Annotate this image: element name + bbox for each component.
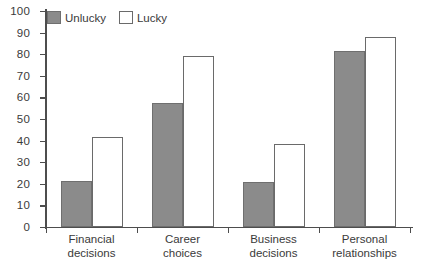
category-label-line: relationships	[332, 247, 397, 261]
y-axis-tick-label: 0	[23, 221, 30, 233]
y-axis-tick: 100	[40, 11, 46, 12]
y-axis-tick-label: 80	[17, 48, 30, 60]
legend-item-unlucky: Unlucky	[47, 11, 106, 24]
x-axis-category-label: Financialdecisions	[68, 233, 116, 260]
x-axis-tick	[319, 227, 320, 233]
x-axis-tick	[46, 227, 47, 233]
y-axis-tick-label: 70	[17, 70, 30, 82]
y-axis-tick: 80	[40, 54, 46, 55]
y-axis-tick-label: 60	[17, 91, 30, 103]
bar-unlucky-1	[152, 103, 183, 227]
legend-swatch-lucky-icon	[119, 11, 133, 24]
bar-unlucky-0	[61, 181, 92, 227]
category-label-line: decisions	[250, 247, 298, 261]
x-axis-tick	[228, 227, 229, 233]
y-axis-tick: 90	[40, 33, 46, 34]
category-label-line: Financial	[68, 233, 116, 247]
y-axis-tick-label: 40	[17, 135, 30, 147]
y-axis-tick: 10	[40, 205, 46, 206]
x-axis-category-label: Personalrelationships	[332, 233, 397, 260]
y-axis-tick: 50	[40, 119, 46, 120]
x-axis-category-label: Careerchoices	[163, 233, 202, 260]
bar-chart: 0102030405060708090100 UnluckyLucky Fina…	[0, 0, 424, 276]
bar-lucky-1	[183, 56, 214, 227]
bar-unlucky-3	[334, 51, 365, 227]
y-axis-tick-label: 50	[17, 113, 30, 125]
y-axis-tick-label: 10	[17, 199, 30, 211]
chart-legend: UnluckyLucky	[47, 11, 167, 24]
y-axis-tick: 20	[40, 184, 46, 185]
legend-label: Lucky	[137, 12, 167, 24]
bar-lucky-3	[365, 37, 396, 227]
legend-item-lucky: Lucky	[119, 11, 167, 24]
category-label-line: Business	[250, 233, 298, 247]
bar-unlucky-2	[243, 182, 274, 227]
y-axis-tick: 60	[40, 97, 46, 98]
plot-area: 0102030405060708090100	[46, 11, 410, 227]
y-axis-tick: 30	[40, 162, 46, 163]
category-label-line: Career	[163, 233, 202, 247]
x-axis-category-label: Businessdecisions	[250, 233, 298, 260]
legend-swatch-unlucky-icon	[47, 11, 61, 24]
y-axis-tick-label: 90	[17, 27, 30, 39]
category-label-line: Personal	[332, 233, 397, 247]
bar-lucky-0	[92, 137, 123, 227]
y-axis-tick-label: 30	[17, 156, 30, 168]
y-axis-tick: 40	[40, 141, 46, 142]
x-axis-tick	[137, 227, 138, 233]
y-axis-tick-label: 20	[17, 178, 30, 190]
legend-label: Unlucky	[65, 12, 106, 24]
category-label-line: choices	[163, 247, 202, 261]
category-label-line: decisions	[68, 247, 116, 261]
y-axis-tick: 70	[40, 76, 46, 77]
bar-lucky-2	[274, 144, 305, 227]
x-axis-tick	[410, 227, 411, 233]
y-axis-tick-label: 100	[10, 5, 30, 17]
